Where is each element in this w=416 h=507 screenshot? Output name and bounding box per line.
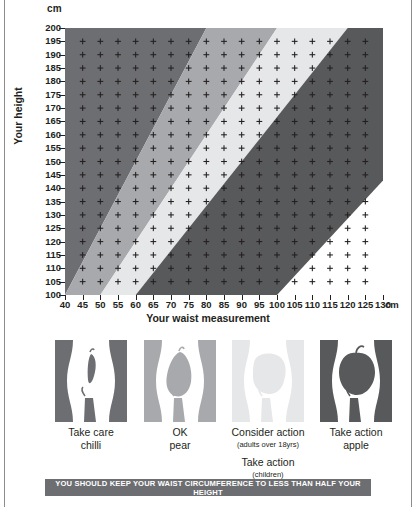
x-tick-label: 100 xyxy=(269,299,285,310)
y-tick-label: 185 xyxy=(27,63,61,73)
y-tick-label: 175 xyxy=(27,90,61,100)
y-tick-label: 125 xyxy=(27,223,61,233)
y-tick-label: 190 xyxy=(27,50,61,60)
x-tick-label: 105 xyxy=(287,299,303,310)
figure-panel-pear xyxy=(144,340,216,422)
x-tick-label: 110 xyxy=(305,299,320,310)
grid-plus-marker xyxy=(362,279,368,285)
grid-plus-marker xyxy=(362,252,368,258)
x-tick-label: 115 xyxy=(322,299,337,310)
grid-plus-marker xyxy=(309,279,315,285)
x-tick-label: 120 xyxy=(340,299,356,310)
x-tick-label: 70 xyxy=(166,299,177,310)
x-tick-label: 50 xyxy=(95,299,106,310)
grid-plus-marker xyxy=(345,239,351,245)
grid-plus-marker xyxy=(327,265,333,271)
y-tick-label: 195 xyxy=(27,36,61,46)
y-tick-label: 120 xyxy=(27,237,61,247)
grid-plus-marker xyxy=(327,252,333,258)
x-axis-unit-label: cm xyxy=(385,299,399,310)
x-tick-label: 125 xyxy=(357,299,373,310)
y-tick-label: 145 xyxy=(27,170,61,180)
figure-panel-apple xyxy=(320,340,392,422)
caption-line-tertiary: Take action xyxy=(208,456,328,469)
grid-plus-marker xyxy=(362,225,368,231)
x-tick-label: 85 xyxy=(219,299,230,310)
y-tick-label: 160 xyxy=(27,130,61,140)
y-tick-label: 105 xyxy=(27,277,61,287)
y-axis-tick-labels: 2001951901851801751701651601551501451401… xyxy=(25,28,61,295)
y-axis-title: Your height xyxy=(12,76,24,156)
band-regions xyxy=(65,28,383,295)
x-tick-label: 90 xyxy=(236,299,247,310)
y-tick-label: 100 xyxy=(27,290,61,300)
y-tick-label: 140 xyxy=(27,183,61,193)
y-tick-label: 165 xyxy=(27,116,61,126)
advice-banner: YOU SHOULD KEEP YOUR WAIST CIRCUMFERENCE… xyxy=(45,479,371,496)
x-tick-label: 40 xyxy=(60,299,71,310)
chart: cm Your height 2001951901851801751701651… xyxy=(0,0,416,330)
y-tick-label: 115 xyxy=(27,250,61,260)
y-tick-label: 135 xyxy=(27,197,61,207)
y-tick-label: 170 xyxy=(27,103,61,113)
grid-plus-marker xyxy=(327,279,333,285)
body-shape-figures: Take carechilliOKpearConsider action(adu… xyxy=(0,340,416,450)
y-tick-label: 155 xyxy=(27,143,61,153)
y-tick-label: 200 xyxy=(27,23,61,33)
caption-line-secondary: apple xyxy=(296,439,416,452)
grid-plus-marker xyxy=(362,212,368,218)
waist-to-height-chart-page: cm Your height 2001951901851801751701651… xyxy=(0,0,416,507)
y-tick-label: 130 xyxy=(27,210,61,220)
y-tick-label: 150 xyxy=(27,157,61,167)
grid-plus-marker xyxy=(362,239,368,245)
x-tick-label: 60 xyxy=(130,299,141,310)
x-tick-label: 95 xyxy=(254,299,265,310)
grid-plus-marker xyxy=(345,265,351,271)
grid-plus-marker xyxy=(345,252,351,258)
plot-area xyxy=(65,28,383,295)
grid-plus-marker xyxy=(292,279,298,285)
grid-plus-marker xyxy=(345,279,351,285)
grid-plus-marker xyxy=(345,225,351,231)
x-tick-label: 55 xyxy=(113,299,124,310)
x-tick-label: 65 xyxy=(148,299,159,310)
x-axis-title: Your waist measurement xyxy=(0,312,416,324)
x-tick-label: 45 xyxy=(77,299,88,310)
x-tick-label: 75 xyxy=(183,299,194,310)
x-axis-tick-labels: 4045505560657075808590951001051101151201… xyxy=(65,299,383,313)
x-tick-label: 80 xyxy=(201,299,212,310)
y-tick-label: 180 xyxy=(27,76,61,86)
caption-line-primary: Take action xyxy=(296,426,416,439)
figure-panel-pearapple xyxy=(232,340,304,422)
y-tick-label: 110 xyxy=(27,263,61,273)
figure-panel-chilli xyxy=(55,340,127,422)
grid-plus-marker xyxy=(362,265,368,271)
figure-caption-apple: Take actionapple xyxy=(296,426,416,452)
y-axis-unit-label: cm xyxy=(47,3,62,14)
grid-plus-marker xyxy=(309,265,315,271)
